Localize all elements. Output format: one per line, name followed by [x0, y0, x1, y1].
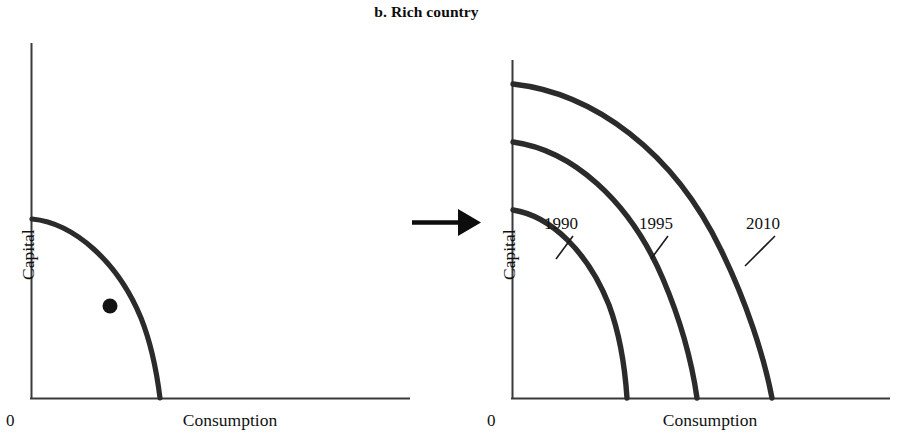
left-panel-axes: [30, 43, 410, 399]
right-x-axis-label: Consumption: [610, 412, 810, 430]
right-arrow-icon: [412, 209, 481, 236]
left-ppf-curve: [32, 219, 160, 398]
figure-canvas: b. Rich country: [0, 0, 903, 445]
curve-label-1995: 1995: [639, 215, 673, 232]
right-origin-label: 0: [487, 412, 496, 429]
leader-line-1995: [651, 236, 668, 259]
ppf-curve-1995: [513, 142, 697, 398]
left-y-axis-label: Capital: [20, 229, 38, 280]
curve-label-2010: 2010: [746, 215, 780, 232]
left-x-axis-label: Consumption: [130, 412, 330, 430]
production-point-marker: [103, 299, 118, 314]
curve-label-1990: 1990: [544, 215, 578, 232]
left-origin-label: 0: [6, 412, 15, 429]
ppf-curve-1990: [513, 210, 627, 398]
right-y-axis-label: Capital: [501, 229, 519, 280]
leader-line-2010: [745, 236, 775, 266]
